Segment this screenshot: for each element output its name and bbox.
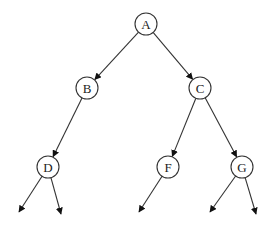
node-label: F (164, 160, 171, 175)
node-label: A (141, 17, 151, 32)
node-g: G (231, 156, 253, 178)
node-b: B (76, 77, 98, 99)
node-f: F (157, 156, 179, 178)
node-label: G (237, 160, 246, 175)
edge-a-c-arrow (153, 32, 192, 79)
nodes: ABCDFG (37, 13, 253, 178)
edge-c-f-arrow (172, 98, 196, 156)
node-d: D (37, 156, 59, 178)
node-label: C (196, 81, 205, 96)
edge-f-child-2-arrow (139, 176, 162, 212)
edge-c-g-arrow (205, 98, 236, 157)
edge-g-child-4-arrow (245, 178, 256, 214)
edge-g-child-3-arrow (210, 176, 236, 212)
edge-a-b-arrow (95, 32, 139, 79)
node-label: D (43, 160, 52, 175)
edge-b-d-arrow (53, 98, 82, 157)
tree-diagram: ABCDFG (0, 0, 273, 225)
node-label: B (83, 81, 92, 96)
node-a: A (135, 13, 157, 35)
edge-d-child-1-arrow (51, 178, 61, 214)
edge-d-child-0-arrow (19, 176, 42, 212)
node-c: C (189, 77, 211, 99)
edges (19, 32, 256, 214)
